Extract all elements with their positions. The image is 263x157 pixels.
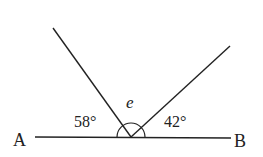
angle-arc-e <box>117 123 145 137</box>
point-a-label: A <box>13 130 26 150</box>
angle-e-label: e <box>126 93 134 112</box>
point-b-label: B <box>234 131 246 151</box>
angle-left-label: 58° <box>74 113 96 130</box>
angle-right-label: 42° <box>164 113 186 130</box>
angle-diagram: A B 58° e 42° <box>0 0 263 157</box>
line-ab <box>35 137 231 138</box>
